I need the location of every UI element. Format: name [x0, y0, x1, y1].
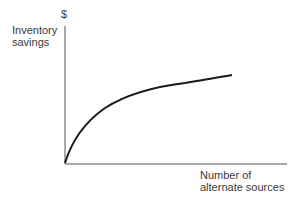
- y-axis-label-line2: savings: [12, 36, 49, 49]
- x-axis-label-line2: alternate sources: [200, 181, 284, 194]
- savings-curve: [65, 75, 232, 163]
- y-unit-label: $: [61, 8, 67, 21]
